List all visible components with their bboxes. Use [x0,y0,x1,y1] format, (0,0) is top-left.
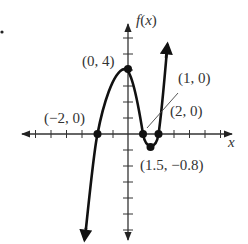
x-axis-label: x [227,134,235,150]
label-point-1-0: (1, 0) [178,70,211,87]
point-2-0 [155,130,163,138]
point-1-0 [139,130,147,138]
point-neg2-0 [94,130,102,138]
label-point-neg2-0: (−2, 0) [44,110,85,127]
stray-dot [0,30,3,33]
label-point-min: (1.5, −0.8) [140,157,203,174]
label-point-2-0: (2, 0) [170,103,203,120]
function-graph: f(x) x (0, 4) (1, 0) (2, 0) (−2, 0) (1.5… [0,0,248,244]
label-point-0-4: (0, 4) [82,53,115,70]
y-axis-label: f(x) [136,12,157,29]
point-0-4 [124,65,132,73]
function-curve [85,50,167,238]
point-min [147,143,155,151]
curve-up-arrow [166,44,168,58]
curve-down-arrow [85,228,87,240]
